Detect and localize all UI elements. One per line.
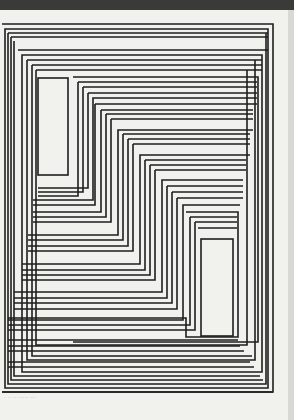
line-artwork [0,0,294,420]
artwork-caption: · ·· ·· ····· ··· [4,394,36,400]
